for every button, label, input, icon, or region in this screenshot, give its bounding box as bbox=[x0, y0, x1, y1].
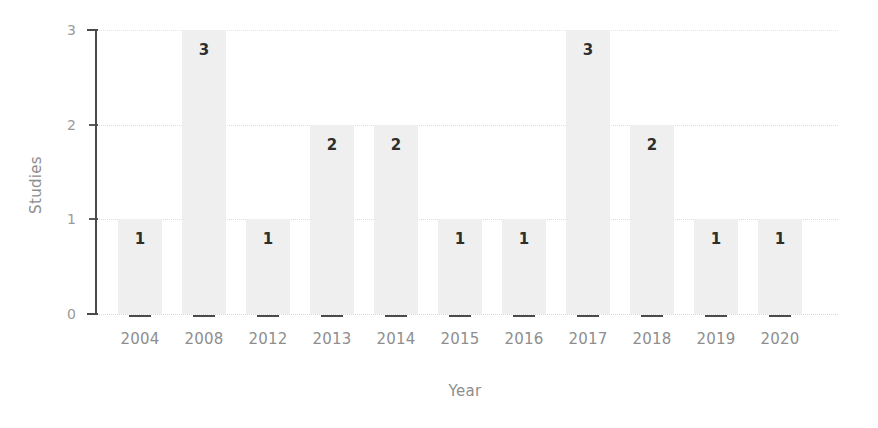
bar-value-label: 3 bbox=[566, 41, 610, 59]
bar[interactable]: 2 bbox=[630, 125, 674, 314]
bar[interactable]: 3 bbox=[182, 30, 226, 314]
x-axis-tick bbox=[257, 315, 279, 317]
x-axis-title-text: Year bbox=[449, 382, 482, 400]
bar[interactable]: 1 bbox=[118, 219, 162, 314]
x-axis-tick bbox=[385, 315, 407, 317]
bar[interactable]: 1 bbox=[246, 219, 290, 314]
x-axis-tick-label: 2020 bbox=[745, 330, 815, 348]
x-axis-tick-label: 2019 bbox=[681, 330, 751, 348]
x-axis-tick-label: 2008 bbox=[169, 330, 239, 348]
y-axis-tick-label: 0 bbox=[36, 306, 76, 322]
x-axis-tick-label: 2013 bbox=[297, 330, 367, 348]
x-axis-tick-label: 2012 bbox=[233, 330, 303, 348]
bar[interactable]: 1 bbox=[438, 219, 482, 314]
x-axis-tick bbox=[705, 315, 727, 317]
bar-value-label: 1 bbox=[438, 230, 482, 248]
y-axis-tick-label: 2 bbox=[36, 117, 76, 133]
bar-value-label: 3 bbox=[182, 41, 226, 59]
bar-value-label: 1 bbox=[694, 230, 738, 248]
x-axis-title: Year bbox=[0, 382, 878, 400]
bar[interactable]: 1 bbox=[694, 219, 738, 314]
x-axis-tick-label: 2017 bbox=[553, 330, 623, 348]
x-axis-tick bbox=[513, 315, 535, 317]
bar-value-label: 2 bbox=[374, 136, 418, 154]
y-axis-tick-label: 3 bbox=[36, 22, 76, 38]
bar-value-label: 2 bbox=[310, 136, 354, 154]
bar[interactable]: 1 bbox=[502, 219, 546, 314]
bars-layer: 13122113211 bbox=[96, 30, 838, 314]
x-axis-tick bbox=[641, 315, 663, 317]
bar-value-label: 1 bbox=[118, 230, 162, 248]
bar[interactable]: 1 bbox=[758, 219, 802, 314]
bar-value-label: 1 bbox=[502, 230, 546, 248]
bar-value-label: 2 bbox=[630, 136, 674, 154]
x-axis-tick-label: 2004 bbox=[105, 330, 175, 348]
x-axis-tick-label: 2016 bbox=[489, 330, 559, 348]
y-axis-tick-label: 1 bbox=[36, 211, 76, 227]
x-axis-tick bbox=[769, 315, 791, 317]
x-axis-tick bbox=[129, 315, 151, 317]
x-axis-tick-label: 2014 bbox=[361, 330, 431, 348]
bar[interactable]: 2 bbox=[374, 125, 418, 314]
bar-chart: Studies 0123 13122113211 200420082012201… bbox=[0, 0, 878, 428]
x-axis-tick bbox=[321, 315, 343, 317]
bar-value-label: 1 bbox=[246, 230, 290, 248]
x-axis-tick bbox=[577, 315, 599, 317]
bar[interactable]: 2 bbox=[310, 125, 354, 314]
x-axis-tick bbox=[449, 315, 471, 317]
bar[interactable]: 3 bbox=[566, 30, 610, 314]
x-axis-tick-label: 2018 bbox=[617, 330, 687, 348]
x-axis-tick-label: 2015 bbox=[425, 330, 495, 348]
x-axis-tick bbox=[193, 315, 215, 317]
bar-value-label: 1 bbox=[758, 230, 802, 248]
